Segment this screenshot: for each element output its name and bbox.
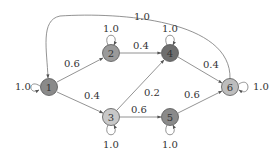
self-loop-6 (239, 82, 248, 92)
edge-label: 0.6 (184, 89, 200, 100)
node-label: 2 (108, 48, 114, 59)
loop-label: 1.0 (103, 23, 119, 34)
edge-label: 0.6 (131, 104, 147, 115)
node-label: 1 (46, 82, 52, 93)
node-label: 3 (108, 112, 114, 123)
node-label: 4 (167, 48, 173, 59)
edge-label: 0.6 (64, 58, 80, 69)
self-loop-4 (166, 35, 174, 45)
loop-label: 1.0 (253, 81, 269, 92)
state-diagram: 1 2 3 4 5 6 0.6 0.4 0.4 0.2 0.6 0.4 0.6 … (0, 0, 280, 158)
loop-label: 1.0 (15, 81, 31, 92)
edge-label: 1.0 (134, 11, 150, 22)
node-label: 5 (167, 112, 173, 123)
edge-label: 0.4 (84, 90, 100, 101)
loop-label: 1.0 (103, 139, 119, 150)
node-label: 6 (227, 82, 233, 93)
self-loop-5 (166, 125, 174, 135)
self-loop-3 (107, 125, 115, 135)
self-loop-2 (107, 35, 115, 45)
loop-label: 1.0 (162, 23, 178, 34)
edge-label: 0.4 (133, 40, 149, 51)
loop-label: 1.0 (162, 139, 178, 150)
edge-label: 0.2 (144, 87, 160, 98)
self-loop-1 (31, 84, 40, 91)
edge-label: 0.4 (203, 59, 219, 70)
edge-3-4 (117, 60, 164, 110)
